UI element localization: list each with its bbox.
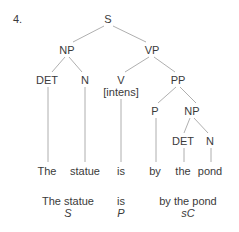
function-role-subject: S (64, 207, 71, 219)
item-number: 4. (13, 13, 22, 25)
branch-s-vp (113, 26, 146, 42)
node-s: S (104, 13, 111, 25)
branch-s-np (73, 26, 104, 42)
node-det: DET (36, 74, 58, 86)
node-v-feature: [intens] (103, 86, 138, 98)
node-np: NP (59, 44, 74, 56)
branch-np-n (69, 57, 82, 72)
function-phrase-subject: The statue (42, 195, 94, 207)
node-vp: VP (145, 44, 160, 56)
branch-pp-p (158, 87, 176, 103)
branch-np2-n (194, 118, 208, 133)
branch-vp-v (125, 57, 149, 72)
branch-np-det (52, 57, 65, 72)
node-p: P (151, 105, 158, 117)
word-statue: statue (70, 165, 100, 177)
word-is: is (117, 165, 125, 177)
node-pp: PP (171, 74, 186, 86)
node-n2: N (206, 135, 214, 147)
branch-pp-np (180, 87, 196, 103)
function-phrase-complement: by the pond (159, 195, 217, 207)
function-role-complement: sC (181, 207, 194, 219)
word-by: by (149, 165, 161, 177)
function-phrase-predicator: is (117, 195, 125, 207)
word-the-2: the (175, 165, 190, 177)
word-the: The (38, 165, 57, 177)
node-det2: DET (172, 135, 194, 147)
branch-np2-det (184, 118, 190, 133)
node-n: N (81, 74, 89, 86)
node-v: V (117, 74, 124, 86)
node-np2: NP (184, 105, 199, 117)
function-role-predicator: P (117, 207, 124, 219)
word-pond: pond (198, 165, 222, 177)
branch-vp-pp (154, 57, 175, 72)
